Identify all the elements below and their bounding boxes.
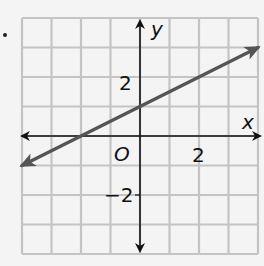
y-axis-label: y: [150, 17, 164, 41]
coordinate-plane: y x O 2 −2 2: [0, 0, 264, 266]
y-tick-label-neg2: −2: [104, 183, 133, 207]
x-axis-label: x: [241, 110, 254, 134]
y-tick-label-2: 2: [119, 71, 132, 95]
x-tick-label-2: 2: [192, 143, 205, 167]
origin-label: O: [114, 142, 130, 166]
